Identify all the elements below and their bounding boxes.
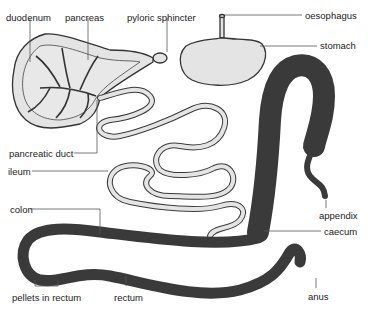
ileum-shape xyxy=(99,90,243,236)
colon-shape xyxy=(23,229,300,293)
label-stomach: stomach xyxy=(320,40,356,51)
label-caecum: caecum xyxy=(324,226,357,237)
label-colon: colon xyxy=(10,204,33,215)
label-duodenum: duodenum xyxy=(6,12,51,23)
label-pyloric-sphincter: pyloric sphincter xyxy=(127,12,196,23)
label-ileum: ileum xyxy=(8,166,31,177)
label-appendix: appendix xyxy=(319,210,358,221)
label-pancreatic-duct: pancreatic duct xyxy=(9,148,73,159)
label-pellets-in-rectum: pellets in rectum xyxy=(12,292,81,303)
label-pancreas: pancreas xyxy=(65,12,104,23)
label-rectum: rectum xyxy=(114,292,143,303)
pyloric-sphincter-shape xyxy=(153,53,167,63)
digestive-system-diagram: duodenum pancreas pyloric sphincter oeso… xyxy=(0,0,368,313)
stomach-shape xyxy=(180,38,265,85)
label-anus: anus xyxy=(308,291,329,302)
label-oesophagus: oesophagus xyxy=(305,10,357,21)
oesophagus-shape xyxy=(220,15,225,39)
